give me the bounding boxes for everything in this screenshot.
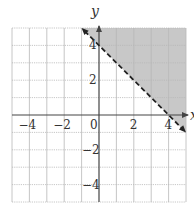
y-tick-label: 4 — [89, 38, 97, 52]
x-tick-label: −2 — [53, 118, 71, 132]
x-tick-label: 2 — [130, 118, 138, 132]
y-tick-label: 2 — [89, 73, 97, 87]
x-tick-label: 4 — [165, 118, 173, 132]
inequality-graph: −4−202442−2−4 y x — [0, 0, 194, 214]
y-axis-label: y — [90, 3, 100, 19]
x-tick-label: −4 — [18, 118, 36, 132]
x-tick-label: 0 — [90, 118, 98, 132]
x-axis-label: x — [190, 107, 194, 123]
y-tick-label: −4 — [82, 178, 100, 192]
y-tick-label: −2 — [82, 143, 100, 157]
